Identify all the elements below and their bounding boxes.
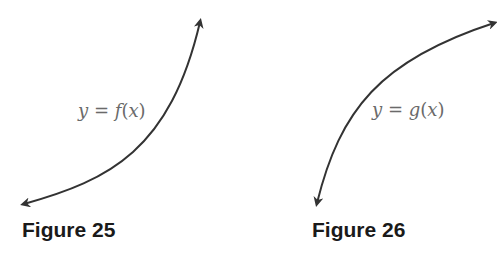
function-label-g: y = g(x)	[372, 99, 444, 120]
figure-caption: Figure 26	[312, 218, 405, 242]
function-label-f: y = f(x)	[78, 100, 146, 121]
figure-26: y = g(x) Figure 26	[250, 0, 497, 257]
figure-caption: Figure 25	[22, 218, 115, 242]
figure-25: y = f(x) Figure 25	[0, 0, 250, 257]
